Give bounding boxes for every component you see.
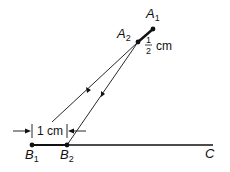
label-a1: A1 bbox=[145, 6, 160, 23]
label-b1: B1 bbox=[25, 147, 39, 164]
point-a1 bbox=[151, 27, 156, 32]
dimension-label-1cm: 1 cm bbox=[37, 124, 63, 138]
ray-a2-b1 bbox=[52, 42, 138, 122]
dimension-1cm: 1 cm bbox=[13, 124, 86, 138]
label-a2: A2 bbox=[116, 26, 131, 43]
label-c: C bbox=[205, 146, 215, 161]
arrow-icon bbox=[101, 91, 105, 97]
point-a2 bbox=[136, 40, 141, 45]
svg-text:1: 1 bbox=[146, 35, 151, 45]
label-b2: B2 bbox=[60, 147, 74, 164]
svg-text:2: 2 bbox=[146, 46, 151, 56]
lens-ray-diagram: 1 cm 1 2 cm A1 A2 B1 B2 C bbox=[0, 0, 230, 172]
dimension-half-cm: 1 2 cm bbox=[145, 35, 172, 56]
svg-text:cm: cm bbox=[156, 39, 172, 53]
